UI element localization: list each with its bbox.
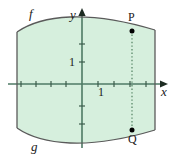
point-label-p: P bbox=[128, 11, 135, 23]
y-axis-label: y bbox=[70, 8, 76, 21]
x-tick-label-1: 1 bbox=[98, 86, 104, 98]
graph-canvas bbox=[0, 0, 174, 161]
shaded-region bbox=[17, 17, 155, 143]
math-figure: f g y x P Q 1 1 bbox=[0, 0, 174, 161]
point-p-marker bbox=[130, 29, 135, 34]
y-tick-label-1: 1 bbox=[69, 56, 75, 68]
y-axis-arrow bbox=[78, 8, 85, 16]
curve-label-f: f bbox=[29, 7, 33, 20]
x-axis-label: x bbox=[161, 85, 167, 98]
curve-label-g: g bbox=[31, 140, 38, 153]
point-label-q: Q bbox=[128, 133, 137, 145]
